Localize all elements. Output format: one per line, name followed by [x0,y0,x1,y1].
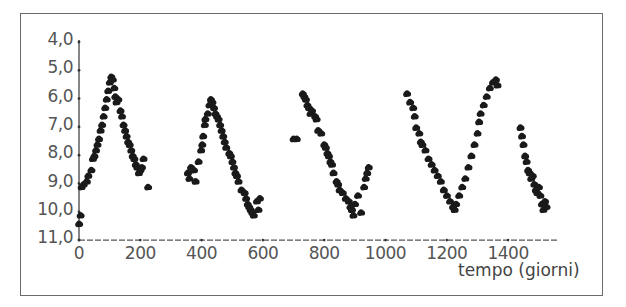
y-tick-mark [78,154,81,157]
data-point [95,137,100,142]
y-tick-label: 6,0 [23,88,73,105]
data-point [357,211,362,216]
data-point [517,126,522,131]
y-tick-label: 11,0 [23,229,73,246]
data-point [103,98,108,103]
data-point [104,89,109,94]
data-point [486,86,491,91]
data-point [84,174,89,179]
data-point [339,191,344,196]
data-point [535,185,540,190]
data-point [350,214,355,219]
data-point [192,180,197,185]
data-point [520,143,525,148]
data-point [195,160,200,165]
data-points [75,73,550,227]
series-ciclo-1 [75,73,152,227]
data-point [91,154,96,159]
data-point [477,112,482,117]
x-tick-mark [262,239,265,242]
data-point [110,86,115,91]
data-point [98,123,103,128]
data-point [114,98,119,103]
data-point [190,168,195,173]
data-point [199,134,204,139]
data-point [100,115,105,120]
data-point [222,146,227,151]
data-point [403,92,408,97]
data-point [109,78,114,83]
data-point [140,157,145,162]
data-point [118,115,123,120]
data-point [202,117,207,122]
series-ciclo-5 [517,124,551,213]
data-point [455,194,460,199]
data-point [475,120,480,125]
data-point [412,126,417,131]
data-point [411,115,416,120]
data-point [483,95,488,100]
x-tick-mark [323,239,326,242]
data-point [468,154,473,159]
data-point [537,194,542,199]
x-tick-label: 400 [172,245,232,262]
y-tick-label: 5,0 [23,59,73,76]
data-point [198,143,203,148]
data-point [77,214,82,219]
data-point [328,163,333,168]
data-point [406,100,411,105]
data-point [543,205,548,210]
data-point [461,177,466,182]
data-point [317,132,322,137]
data-point [83,180,88,185]
data-point [529,174,534,179]
x-tick-label: 200 [110,245,170,262]
data-point [434,174,439,179]
data-point [465,165,470,170]
data-point [474,132,479,137]
data-point [419,143,424,148]
data-point [94,143,99,148]
data-point [446,199,451,204]
y-tick-label: 9,0 [23,173,73,190]
data-point [101,106,106,111]
axes [78,40,558,242]
data-point [458,185,463,190]
x-tick-label: 0 [49,245,109,262]
data-point [201,123,206,128]
data-point [138,165,143,170]
data-point [409,106,414,111]
y-tick-label: 4,0 [23,31,73,48]
data-point [480,103,485,108]
x-tick-mark [200,239,203,242]
x-tick-mark [507,239,510,242]
data-point [523,160,528,165]
x-tick-mark [384,239,387,242]
y-tick-mark [78,126,81,129]
data-point [313,117,318,122]
y-tick-label: 8,0 [23,144,73,161]
x-tick-mark [139,239,142,242]
x-tick-label: 600 [233,245,293,262]
data-point [437,180,442,185]
data-point [75,222,80,227]
data-point [451,208,456,213]
data-point [92,148,97,153]
data-point [362,177,367,182]
data-point [443,194,448,199]
series-ciclo-3 [290,90,373,218]
data-point [235,180,240,185]
data-point [351,202,356,207]
x-tick-mark [446,239,449,242]
data-point [415,132,420,137]
data-point [256,197,261,202]
data-point [354,194,359,199]
data-point [471,143,476,148]
data-point [440,188,445,193]
data-point [428,163,433,168]
data-point [365,165,370,170]
data-point [204,112,209,117]
data-point [431,168,436,173]
series-ciclo-2 [184,96,264,219]
data-point [144,185,149,190]
